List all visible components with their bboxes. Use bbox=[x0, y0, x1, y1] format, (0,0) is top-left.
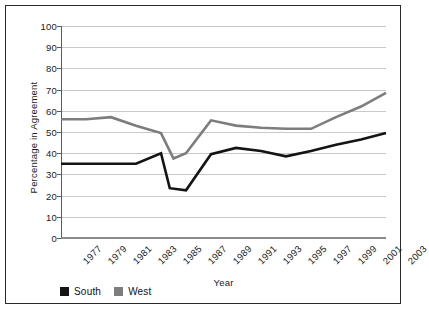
x-tick-label-1995: 1995 bbox=[305, 243, 328, 266]
legend-label-west: West bbox=[128, 286, 151, 297]
y-tick-mark-10 bbox=[57, 217, 61, 218]
x-tick-label-1993: 1993 bbox=[280, 243, 303, 266]
y-tick-label-80: 80 bbox=[46, 63, 57, 74]
y-tick-mark-60 bbox=[57, 111, 61, 112]
legend-item-west[interactable]: West bbox=[114, 286, 151, 297]
y-tick-label-10: 10 bbox=[46, 211, 57, 222]
y-tick-mark-90 bbox=[57, 47, 61, 48]
y-tick-label-50: 50 bbox=[46, 127, 57, 138]
x-tick-label-1999: 1999 bbox=[355, 243, 378, 266]
y-tick-label-70: 70 bbox=[46, 84, 57, 95]
x-tick-label-1977: 1977 bbox=[80, 243, 103, 266]
x-tick-label-1985: 1985 bbox=[180, 243, 203, 266]
y-tick-mark-40 bbox=[57, 153, 61, 154]
y-tick-label-60: 60 bbox=[46, 105, 57, 116]
y-tick-mark-50 bbox=[57, 132, 61, 133]
y-tick-label-90: 90 bbox=[46, 42, 57, 53]
series-line-west bbox=[61, 93, 386, 159]
legend-swatch-icon-south bbox=[60, 287, 69, 296]
x-tick-label-1989: 1989 bbox=[230, 243, 253, 266]
y-tick-mark-70 bbox=[57, 90, 61, 91]
legend-label-south: South bbox=[74, 286, 101, 297]
legend-swatch-icon-west bbox=[114, 287, 123, 296]
plot-area bbox=[61, 26, 386, 238]
x-tick-label-1991: 1991 bbox=[255, 243, 278, 266]
y-tick-mark-30 bbox=[57, 174, 61, 175]
x-tick-label-2003: 2003 bbox=[405, 243, 428, 266]
x-tick-label-1979: 1979 bbox=[105, 243, 128, 266]
y-tick-mark-0 bbox=[57, 238, 61, 239]
y-axis-title: Percentage in Agreement bbox=[28, 58, 39, 218]
x-tick-label-1981: 1981 bbox=[130, 243, 153, 266]
y-tick-label-20: 20 bbox=[46, 190, 57, 201]
x-tick-label-1983: 1983 bbox=[155, 243, 178, 266]
y-axis-title-anchor: Percentage in Agreement bbox=[14, 42, 30, 222]
y-tick-label-30: 30 bbox=[46, 169, 57, 180]
x-tick-label-1997: 1997 bbox=[330, 243, 353, 266]
y-tick-mark-80 bbox=[57, 68, 61, 69]
legend-item-south[interactable]: South bbox=[60, 286, 101, 297]
y-tick-mark-100 bbox=[57, 26, 61, 27]
chart-legend: SouthWest bbox=[60, 286, 152, 297]
y-tick-mark-20 bbox=[57, 196, 61, 197]
y-tick-label-100: 100 bbox=[41, 21, 57, 32]
x-axis-ticks: 1977197919811983198519871989199119931995… bbox=[61, 238, 386, 280]
series-lines bbox=[61, 26, 386, 238]
x-tick-label-1987: 1987 bbox=[205, 243, 228, 266]
y-tick-label-40: 40 bbox=[46, 148, 57, 159]
series-line-south bbox=[61, 133, 386, 190]
